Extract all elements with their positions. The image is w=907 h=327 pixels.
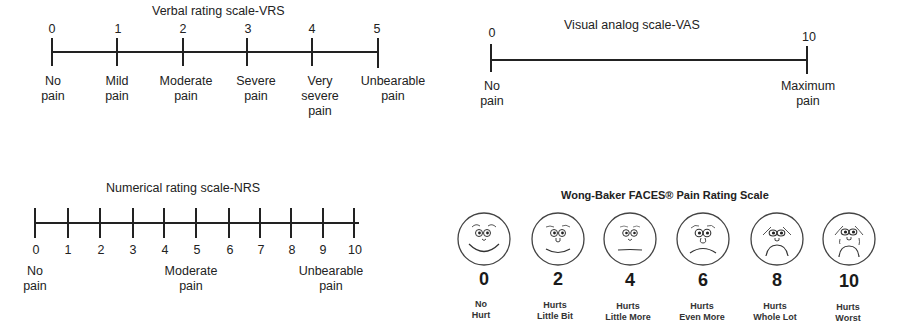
vrs-tick-label: 2	[168, 22, 198, 36]
nrs-tick	[259, 208, 261, 238]
nrs-tick-label: 8	[277, 243, 307, 257]
nrs-tick	[290, 208, 292, 238]
faces-title: Wong-Baker FACES® Pain Rating Scale	[561, 189, 769, 201]
face-value: 4	[610, 270, 650, 291]
vas-max-label: 10	[794, 30, 824, 44]
face-value: 6	[683, 270, 723, 291]
nrs-tick	[67, 208, 69, 238]
vrs-tick	[246, 38, 248, 66]
nrs-tick-label: 5	[182, 243, 212, 257]
vrs-label-unbearable-pain: Unbearablepain	[348, 74, 438, 104]
nrs-tick-label: 3	[118, 243, 148, 257]
nrs-tick	[228, 208, 230, 238]
vrs-tick-label: 1	[103, 22, 133, 36]
nrs-axis-line	[35, 222, 359, 224]
nrs-tick-label: 2	[86, 243, 116, 257]
face-hurts-even-more-icon	[675, 211, 731, 267]
nrs-label-unbearable-pain: Unbearablepain	[286, 264, 376, 294]
vas-tick-max	[806, 46, 808, 74]
vas-axis-line	[491, 59, 808, 61]
vrs-tick-label: 5	[362, 22, 392, 36]
face-value: 0	[464, 269, 504, 290]
nrs-label-moderate-pain: Moderatepain	[146, 264, 236, 294]
face-hurts-little-bit-icon	[530, 211, 586, 267]
face-label-little-more: HurtsLittle More	[588, 301, 668, 323]
nrs-tick	[132, 208, 134, 238]
nrs-tick-label: 7	[246, 243, 276, 257]
face-value: 2	[538, 269, 578, 290]
vas-label-maximum-pain: Maximumpain	[763, 79, 853, 109]
nrs-tick-label: 4	[150, 243, 180, 257]
face-hurts-little-more-icon	[602, 211, 658, 267]
nrs-tick	[195, 208, 197, 238]
vas-label-no-pain: Nopain	[447, 79, 537, 109]
nrs-tick	[34, 208, 36, 238]
nrs-tick-label: 10	[340, 243, 370, 257]
face-label-little-bit: HurtsLittle Bit	[515, 300, 595, 322]
vrs-tick-label: 3	[233, 22, 263, 36]
vrs-tick	[311, 38, 313, 66]
nrs-label-no-pain: Nopain	[0, 264, 80, 294]
nrs-tick	[163, 208, 165, 238]
vrs-tick-label: 0	[37, 22, 67, 36]
face-label-even-more: HurtsEven More	[662, 301, 742, 323]
face-hurts-worst-icon	[821, 211, 877, 267]
nrs-tick-label: 1	[53, 243, 83, 257]
vrs-tick	[182, 38, 184, 66]
vrs-tick	[377, 38, 379, 68]
face-hurts-whole-lot-icon	[749, 211, 805, 267]
nrs-tick-label: 6	[215, 243, 245, 257]
nrs-tick-label: 0	[21, 243, 51, 257]
vrs-axis-line	[52, 51, 378, 53]
face-value: 10	[829, 271, 869, 292]
face-no-hurt-icon	[456, 211, 512, 267]
nrs-tick	[99, 208, 101, 238]
nrs-title: Numerical rating scale-NRS	[106, 181, 260, 195]
nrs-tick-label: 9	[308, 243, 338, 257]
face-value: 8	[757, 270, 797, 291]
vrs-tick	[116, 38, 118, 66]
face-label-whole-lot: HurtsWhole Lot	[735, 301, 815, 323]
vas-min-label: 0	[477, 26, 507, 40]
vrs-title: Verbal rating scale-VRS	[152, 4, 285, 18]
vas-tick-min	[490, 44, 492, 72]
vrs-tick-label: 4	[297, 22, 327, 36]
nrs-tick	[322, 208, 324, 238]
face-label-no-hurt: NoHurt	[441, 299, 521, 321]
face-label-worst: HurtsWorst	[808, 302, 888, 324]
vas-title: Visual analog scale-VAS	[564, 18, 700, 32]
vrs-tick	[51, 38, 53, 66]
nrs-tick	[353, 208, 355, 238]
